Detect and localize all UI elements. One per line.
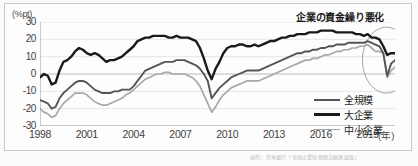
legend-swatch xyxy=(314,129,340,130)
y-axis-tick-label: 30 xyxy=(2,16,36,27)
legend-swatch xyxy=(314,99,340,101)
series-line xyxy=(40,31,395,85)
y-axis-tick-label: 0 xyxy=(2,68,36,79)
x-axis-tick-label: 2007 xyxy=(160,128,200,140)
chart-figure: (%pt) 3020100-10-20-30 19982001200420072… xyxy=(0,0,418,166)
y-axis-tick-label: -20 xyxy=(2,103,36,114)
legend-label: 全規模 xyxy=(344,92,373,107)
x-axis-tick-label: 2010 xyxy=(207,128,247,140)
source-note: 出所：日本銀行「全国企業短期経済観測調査」 xyxy=(250,153,359,160)
legend-item[interactable]: 中小企業 xyxy=(314,123,383,136)
y-axis-tick-label: 20 xyxy=(2,33,36,44)
x-axis-tick-label: 2001 xyxy=(67,128,107,140)
legend-item[interactable]: 全規模 xyxy=(314,93,383,106)
legend-label: 大企業 xyxy=(344,107,373,122)
legend-swatch xyxy=(314,113,340,116)
x-axis-tick-label: 1998 xyxy=(20,128,60,140)
annotation-label: 企業の資金繰り悪化 xyxy=(296,9,384,24)
y-axis-tick-label: 10 xyxy=(2,51,36,62)
x-axis-tick-label: 2013 xyxy=(254,128,294,140)
legend-label: 中小企業 xyxy=(344,122,383,137)
legend-item[interactable]: 大企業 xyxy=(314,108,383,121)
y-axis-tick-label: -10 xyxy=(2,85,36,96)
x-axis-tick-label: 2004 xyxy=(114,128,154,140)
chart-legend: 全規模大企業中小企業 xyxy=(314,93,383,136)
annotation-ellipse xyxy=(362,27,395,93)
